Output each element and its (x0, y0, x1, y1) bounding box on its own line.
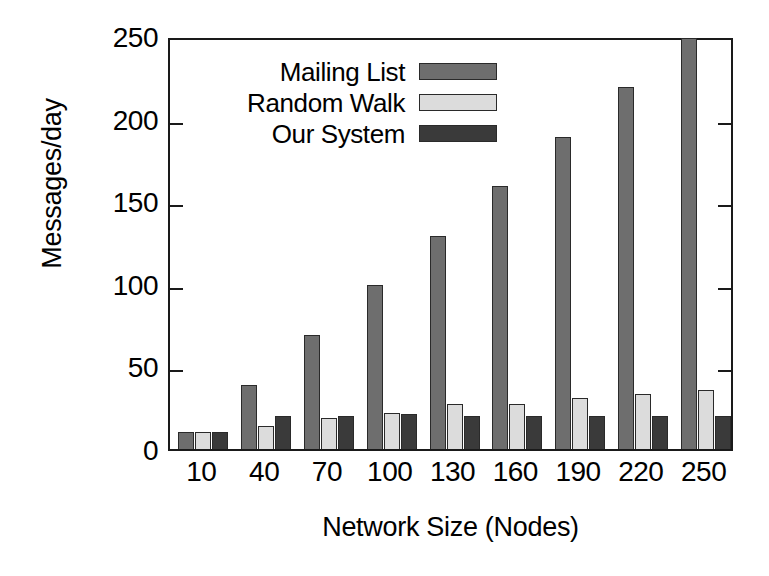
y-axis-tick-label: 200 (68, 107, 158, 135)
bar (321, 418, 337, 449)
legend-swatch (419, 63, 497, 80)
bar-group (555, 40, 605, 449)
legend-label: Random Walk (247, 90, 405, 116)
y-axis-tick-label: 250 (68, 24, 158, 52)
bar (509, 404, 525, 449)
bar (698, 390, 714, 449)
bar (430, 236, 446, 449)
legend-label: Mailing List (280, 59, 405, 85)
bar (555, 137, 571, 449)
bar-chart-figure: Messages/day 050100150200250 10407010013… (0, 0, 769, 576)
bar (367, 285, 383, 449)
bar (492, 186, 508, 449)
x-axis-tick-labels: 104070100130160190220250 (168, 456, 733, 496)
x-axis-tick-label: 250 (681, 456, 726, 488)
y-axis-tick-label: 150 (68, 189, 158, 217)
bar (618, 87, 634, 449)
x-axis-tick-label: 190 (555, 456, 600, 488)
bar (681, 38, 697, 449)
bar-group (618, 40, 668, 449)
bar (652, 416, 668, 449)
x-axis-tick-label: 100 (367, 456, 412, 488)
legend-swatch (419, 125, 497, 142)
y-axis-tick-label: 50 (68, 354, 158, 382)
bar (572, 398, 588, 449)
bar (401, 414, 417, 449)
bar (338, 416, 354, 449)
x-axis-label: Network Size (Nodes) (168, 512, 733, 543)
x-axis-tick-label: 70 (312, 456, 342, 488)
bar (275, 416, 291, 449)
bar (715, 416, 731, 449)
bar (241, 385, 257, 449)
legend-item: Our System (197, 118, 497, 149)
x-axis-tick-label: 220 (618, 456, 663, 488)
bar (195, 432, 211, 449)
y-axis-tick-label: 0 (68, 437, 158, 465)
x-axis-tick-label: 40 (249, 456, 279, 488)
bar-group (681, 40, 731, 449)
bar-group (492, 40, 542, 449)
x-axis-tick-label: 10 (186, 456, 216, 488)
bar (384, 413, 400, 449)
bar (212, 432, 228, 449)
bar (589, 416, 605, 449)
x-axis-tick-label: 130 (430, 456, 475, 488)
bar (178, 432, 194, 449)
bar (464, 416, 480, 449)
bar (447, 404, 463, 449)
legend-label: Our System (272, 121, 405, 147)
bar (526, 416, 542, 449)
legend-swatch (419, 94, 497, 111)
legend-item: Random Walk (197, 87, 497, 118)
bar (635, 394, 651, 449)
bar (258, 426, 274, 449)
y-axis-tick-labels: 050100150200250 (58, 0, 158, 576)
y-axis-tick-label: 100 (68, 272, 158, 300)
x-axis-tick-label: 160 (493, 456, 538, 488)
legend-item: Mailing List (197, 56, 497, 87)
legend: Mailing ListRandom WalkOur System (197, 56, 497, 149)
bar (304, 335, 320, 449)
